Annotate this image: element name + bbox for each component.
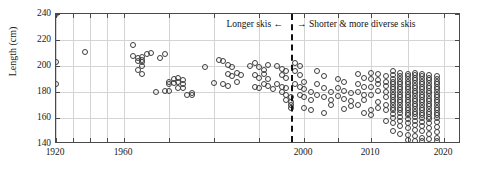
scatter-point [238, 72, 244, 78]
scatter-point [130, 42, 136, 48]
scatter-point [321, 85, 327, 91]
scatter-point [211, 80, 217, 86]
y-axis-tick-right [455, 92, 459, 93]
scatter-point [412, 127, 418, 133]
scatter-point [314, 81, 320, 87]
annotation-longer-skis: Longer skis ← [227, 19, 283, 29]
x-axis-tick-top [338, 14, 339, 18]
scatter-point [335, 76, 341, 82]
scatter-point [335, 85, 341, 91]
scatter-point [383, 107, 389, 113]
scatter-point [297, 72, 303, 78]
x-axis-tick-top [169, 14, 170, 18]
scatter-point [189, 92, 195, 98]
scatter-point [348, 103, 354, 109]
scatter-point [368, 84, 374, 90]
scatter-point [375, 88, 381, 94]
scatter-point [297, 63, 303, 69]
y-tick-label: 180 [26, 86, 51, 96]
gridline-vertical [124, 14, 125, 142]
scatter-point [375, 81, 381, 87]
y-tick-label: 160 [26, 112, 51, 122]
x-axis-tick [338, 138, 339, 142]
x-axis-tick [73, 138, 74, 142]
x-tick-label: 1960 [114, 147, 133, 157]
scatter-point [412, 138, 418, 143]
scatter-point [314, 68, 320, 74]
scatter-point [348, 90, 354, 96]
scatter-point [397, 123, 403, 129]
scatter-point [148, 50, 154, 56]
x-axis-tick-top [73, 14, 74, 18]
scatter-point [55, 13, 59, 17]
gridline-vertical [73, 14, 74, 142]
scatter-point [301, 105, 307, 111]
plot-area: Longer skis ← → Shorter & more diverse s… [55, 13, 460, 143]
x-axis-tick [371, 138, 372, 142]
scatter-point [283, 75, 289, 81]
scatter-point [355, 71, 361, 77]
scatter-point [162, 51, 168, 57]
scatter-point [153, 89, 159, 95]
x-axis-tick-top [444, 14, 445, 18]
scatter-point [321, 73, 327, 79]
scatter-point [361, 84, 367, 90]
scatter-point [308, 107, 314, 113]
y-axis-tick-right [455, 66, 459, 67]
y-axis-tick-right [455, 14, 459, 15]
scatter-point [180, 85, 186, 91]
scatter-point [361, 97, 367, 103]
scatter-point [383, 118, 389, 124]
scatter-point [390, 120, 396, 126]
x-axis-tick [444, 138, 445, 142]
scatter-point [405, 137, 411, 143]
y-axis-label: Length (cm) [7, 16, 18, 88]
scatter-point [301, 94, 307, 100]
scatter-point [405, 125, 411, 131]
scatter-point [328, 102, 334, 108]
scatter-point [426, 136, 432, 142]
x-axis-tick [214, 138, 215, 142]
scatter-point [419, 128, 425, 134]
scatter-point [229, 64, 235, 70]
scatter-point [139, 71, 145, 77]
annotation-shorter-skis: → Shorter & more diverse skis [297, 19, 415, 29]
y-axis-tick-right [455, 40, 459, 41]
scatter-point [355, 102, 361, 108]
y-axis-tick [56, 92, 60, 93]
scatter-point [202, 64, 208, 70]
scatter-point [328, 89, 334, 95]
scatter-point [308, 97, 314, 103]
x-axis-tick-top [90, 14, 91, 18]
scatter-point [375, 105, 381, 111]
scatter-point [166, 88, 172, 94]
scatter-point [397, 131, 403, 137]
x-axis-tick [124, 138, 125, 142]
ski-length-scatter-figure: Length (cm) 140160180200220240 192019602… [0, 0, 477, 173]
x-axis-tick-top [371, 14, 372, 18]
scatter-point [368, 70, 374, 76]
scatter-point [265, 62, 271, 68]
scatter-point [341, 88, 347, 94]
gridline-vertical [214, 14, 215, 142]
x-axis-tick-top [304, 14, 305, 18]
scatter-point [55, 59, 59, 65]
x-axis-tick-top [214, 14, 215, 18]
scatter-point [383, 79, 389, 85]
scatter-point [234, 79, 240, 85]
scatter-point [82, 49, 88, 55]
scatter-point [390, 128, 396, 134]
x-tick-label: 2000 [294, 147, 313, 157]
scatter-point [434, 138, 440, 143]
scatter-point [308, 89, 314, 95]
scatter-point [270, 86, 276, 92]
gridline-vertical [107, 14, 108, 142]
scatter-point [341, 106, 347, 112]
scatter-point [321, 110, 327, 116]
x-axis-tick [107, 138, 108, 142]
scatter-point [375, 71, 381, 77]
gridline-vertical [90, 14, 91, 142]
gridline-vertical [304, 14, 305, 142]
y-axis-tick-right [455, 118, 459, 119]
scatter-point [341, 96, 347, 102]
